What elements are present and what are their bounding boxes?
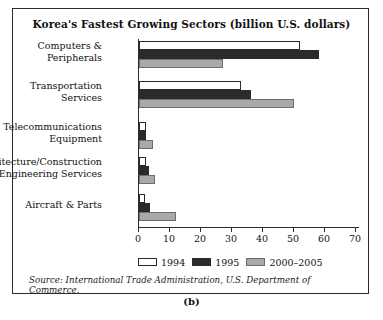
- x-tick-mark: [262, 227, 263, 232]
- category-label: Architecture/ConstructionEngineering Ser…: [0, 156, 102, 179]
- category-label: Computers &Peripherals: [0, 40, 102, 63]
- x-tick-label: 10: [154, 233, 184, 244]
- legend-swatch: [246, 258, 265, 266]
- bar: [139, 131, 146, 140]
- x-tick-label: 40: [247, 233, 277, 244]
- x-tick-label: 70: [340, 233, 370, 244]
- category-label-line: Services: [0, 92, 102, 104]
- plot-area: 010203040506070 Computers &PeripheralsTr…: [13, 39, 370, 244]
- x-tick-mark: [324, 227, 325, 232]
- bar: [139, 99, 294, 108]
- legend-label: 1995: [215, 257, 239, 268]
- category-label-line: Engineering Services: [0, 168, 102, 180]
- bar: [139, 50, 319, 59]
- x-tick-mark: [200, 227, 201, 232]
- bar: [139, 194, 145, 203]
- x-tick-label: 30: [216, 233, 246, 244]
- legend-swatch: [192, 258, 211, 266]
- x-tick-label: 50: [278, 233, 308, 244]
- category-label-line: Aircraft & Parts: [0, 199, 102, 211]
- source-note: Source: International Trade Administrati…: [29, 275, 359, 295]
- x-axis-line: [138, 227, 359, 228]
- category-label-line: Equipment: [0, 133, 102, 145]
- category-label-line: Architecture/Construction: [0, 156, 102, 168]
- category-label-line: Transportation: [0, 80, 102, 92]
- legend-item: 1994: [138, 257, 185, 268]
- category-label-line: Peripherals: [0, 52, 102, 64]
- chart-title: Korea's Fastest Growing Sectors (billion…: [13, 18, 370, 30]
- bar: [139, 90, 251, 99]
- category-label: TelecommunicationsEquipment: [0, 121, 102, 144]
- legend-item: 2000–2005: [246, 257, 322, 268]
- bar: [139, 81, 241, 90]
- figure-root: Korea's Fastest Growing Sectors (billion…: [0, 0, 383, 320]
- bar: [139, 59, 223, 68]
- legend-label: 1994: [161, 257, 185, 268]
- category-label: Aircraft & Parts: [0, 199, 102, 211]
- x-tick-mark: [293, 227, 294, 232]
- x-tick-label: 0: [123, 233, 153, 244]
- legend-label: 2000–2005: [269, 257, 322, 268]
- x-tick-mark: [355, 227, 356, 232]
- x-tick-mark: [169, 227, 170, 232]
- x-tick-mark: [138, 227, 139, 232]
- bar: [139, 157, 146, 166]
- x-tick-label: 60: [309, 233, 339, 244]
- bar: [139, 140, 153, 149]
- bar: [139, 122, 146, 131]
- category-label-line: Computers &: [0, 40, 102, 52]
- legend-item: 1995: [192, 257, 239, 268]
- bar: [139, 166, 149, 175]
- x-tick-mark: [231, 227, 232, 232]
- x-tick-label: 20: [185, 233, 215, 244]
- legend-swatch: [138, 258, 157, 266]
- chart-legend: 199419952000–2005: [138, 255, 370, 269]
- bar: [139, 175, 155, 184]
- bar: [139, 203, 150, 212]
- bar: [139, 212, 176, 221]
- chart-panel: Korea's Fastest Growing Sectors (billion…: [12, 8, 369, 294]
- category-label: TransportationServices: [0, 80, 102, 103]
- figure-caption: (b): [0, 296, 383, 307]
- bar: [139, 41, 300, 50]
- category-label-line: Telecommunications: [0, 121, 102, 133]
